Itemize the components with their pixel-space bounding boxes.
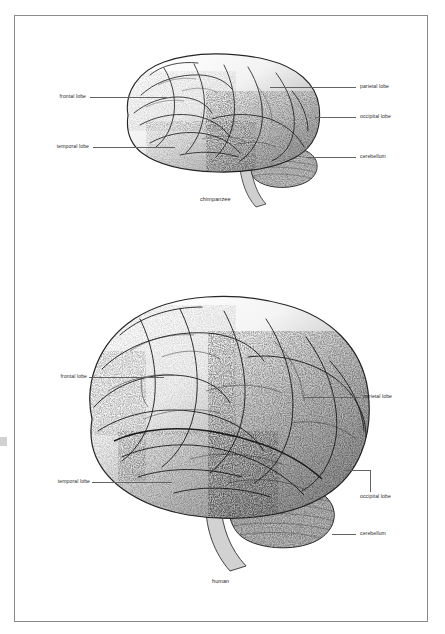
leader-temporal-lobe-chimp [93, 147, 175, 148]
leader-frontal-lobe-chimp [90, 97, 167, 98]
label-parietal-lobe-human: parietal lobe [363, 394, 392, 399]
leader-occipital-lobe-chimp [315, 117, 356, 118]
leader-cerebellum-chimp [307, 157, 356, 158]
leader-cerebellum-human [332, 534, 356, 535]
caption-chimpanzee: chimpanzee [200, 196, 231, 202]
leader-parietal-lobe-chimp [270, 87, 356, 88]
label-occipital-lobe-chimp: occipital lobe [360, 114, 391, 119]
caption-human: human [212, 578, 229, 584]
plate-page: frontal lobe temporal lobe parietal lobe… [0, 0, 445, 634]
label-parietal-lobe-chimp: parietal lobe [360, 84, 389, 89]
chimpanzee-brain-illustration [116, 51, 331, 211]
leader-parietal-lobe-human [304, 397, 360, 398]
leader-temporal-lobe-human [92, 482, 172, 483]
label-frontal-lobe-human: frontal lobe [17, 374, 87, 379]
label-occipital-lobe-human: occipital lobe [360, 494, 391, 499]
leader-occipital-lobe-human-horizontal [345, 470, 371, 471]
scan-edge-artifact [0, 437, 7, 446]
label-cerebellum-human: cerebellum [360, 531, 386, 536]
leader-occipital-lobe-human-vertical [370, 470, 371, 492]
label-temporal-lobe-human: temporal lobe [17, 479, 90, 484]
plate-border-frame: frontal lobe temporal lobe parietal lobe… [14, 15, 428, 622]
label-frontal-lobe-chimp: frontal lobe [17, 94, 86, 99]
label-temporal-lobe-chimp: temporal lobe [17, 144, 89, 149]
leader-frontal-lobe-human [89, 377, 164, 378]
label-cerebellum-chimp: cerebellum [360, 154, 386, 159]
